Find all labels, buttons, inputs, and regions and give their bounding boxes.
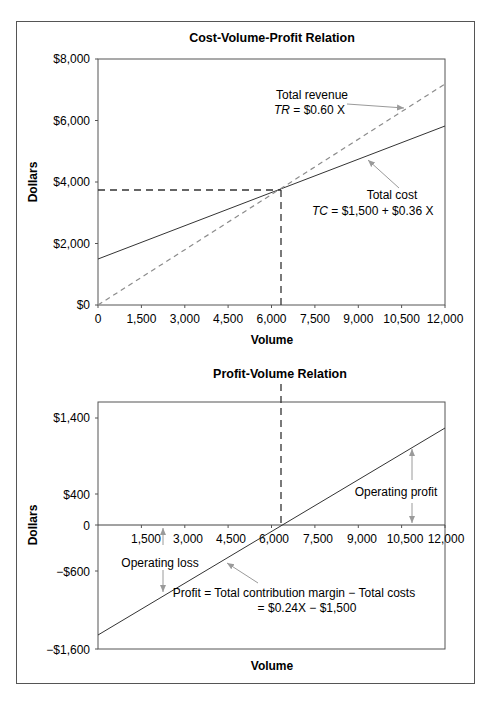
charts-svg: Cost-Volume-Profit Relation $8,000 $6,00… <box>0 0 495 707</box>
pv-xtick: 3,000 <box>173 532 203 546</box>
operating-profit-label: Operating profit <box>355 485 438 499</box>
pv-title: Profit-Volume Relation <box>213 367 347 381</box>
pv-xtick: 9,000 <box>347 532 377 546</box>
cvp-xtick: 0 <box>95 312 102 326</box>
pv-xtick: 10,500 <box>387 532 424 546</box>
cvp-ytick: $4,000 <box>53 175 90 189</box>
cvp-title: Cost-Volume-Profit Relation <box>189 31 355 45</box>
pv-y-axis: $1,400 $400 0 −$600 −$1,600 <box>46 411 98 657</box>
cvp-ytick: $6,000 <box>53 114 90 128</box>
cvp-x-axis: 0 1,500 3,000 4,500 6,000 7,500 9,000 10… <box>95 305 464 326</box>
cvp-ytick: $8,000 <box>53 52 90 66</box>
pv-ytick: −$1,600 <box>46 643 90 657</box>
cvp-xtick: 1,500 <box>126 312 156 326</box>
profit-equation-line2: = $0.24X − $1,500 <box>258 601 357 615</box>
cvp-xtick: 6,000 <box>256 312 286 326</box>
cvp-y-axis: $8,000 $6,000 $4,000 $2,000 $0 <box>53 52 98 312</box>
cost-annotation-label: Total cost <box>367 188 418 202</box>
profit-equation-line1: Profit = Total contribution margin − Tot… <box>173 586 415 600</box>
cvp-xtick: 12,000 <box>427 312 464 326</box>
operating-loss-label: Operating loss <box>121 556 198 570</box>
cvp-xtick: 3,000 <box>170 312 200 326</box>
cvp-xtick: 7,500 <box>300 312 330 326</box>
pv-xtick: 7,500 <box>303 532 333 546</box>
pv-xtick: 4,500 <box>216 532 246 546</box>
cvp-ytick: $0 <box>77 298 91 312</box>
pv-ytick: $1,400 <box>53 411 90 425</box>
cost-annotation-equation: TC = $1,500 + $0.36 X <box>312 204 433 218</box>
pv-xlabel: Volume <box>251 659 294 673</box>
revenue-annotation-label: Total revenue <box>276 88 348 102</box>
pv-ytick: 0 <box>83 519 90 533</box>
cvp-ylabel: Dollars <box>26 161 40 202</box>
cvp-chart: Cost-Volume-Profit Relation $8,000 $6,00… <box>26 31 464 347</box>
cvp-xtick: 9,000 <box>343 312 373 326</box>
pv-ylabel: Dollars <box>26 504 40 545</box>
cost-arrow-icon <box>368 160 399 188</box>
pv-x-axis: 1,500 3,000 4,500 6,000 7,500 9,000 10,5… <box>131 525 465 546</box>
cvp-xtick: 10,500 <box>383 312 420 326</box>
revenue-arrow-icon <box>347 104 404 108</box>
pv-xtick: 6,000 <box>259 532 289 546</box>
cvp-ytick: $2,000 <box>53 237 90 251</box>
revenue-annotation-equation: TR = $0.60 X <box>274 103 345 117</box>
cvp-xtick: 4,500 <box>213 312 243 326</box>
pv-xtick: 12,000 <box>428 532 465 546</box>
pv-ytick: $400 <box>63 488 90 502</box>
pv-chart: Profit-Volume Relation $1,400 $400 0 −$6… <box>26 367 465 673</box>
pv-ytick: −$600 <box>56 565 90 579</box>
cvp-xlabel: Volume <box>251 333 294 347</box>
pv-xtick: 1,500 <box>131 532 161 546</box>
profit-equation-arrow-icon <box>227 563 258 583</box>
